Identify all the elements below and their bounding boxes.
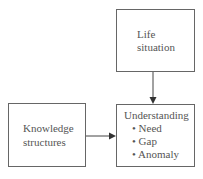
arrow-knowledge-to-understanding	[86, 133, 116, 140]
connector-arrows	[0, 0, 203, 179]
arrow-life-to-understanding	[150, 72, 157, 104]
